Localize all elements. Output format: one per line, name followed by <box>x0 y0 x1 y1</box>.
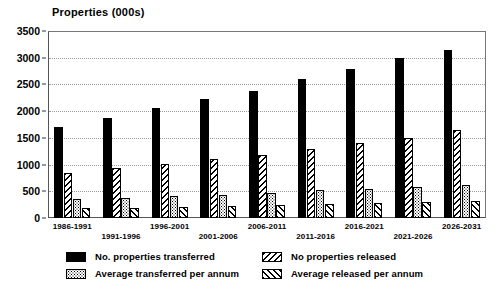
legend-swatch-icon <box>66 252 86 262</box>
bar <box>316 190 325 218</box>
bar-group <box>444 32 480 218</box>
y-tick-label: 1500 <box>17 132 40 144</box>
bar <box>307 149 316 218</box>
bar <box>121 198 130 218</box>
bar <box>161 164 170 218</box>
y-tick-mark <box>42 57 46 58</box>
chart-title: Properties (000s) <box>52 6 145 18</box>
y-tick-mark <box>42 31 46 32</box>
bar <box>258 155 267 218</box>
bar <box>152 108 161 218</box>
bars-layer <box>49 32 485 218</box>
bar <box>404 138 413 218</box>
bar-group <box>103 32 139 218</box>
x-tick-label: 1986-1991 <box>53 222 92 231</box>
bar <box>471 201 480 218</box>
y-tick-label: 3500 <box>17 25 40 37</box>
bar <box>112 168 121 218</box>
bar <box>422 202 431 218</box>
y-tick-mark <box>42 164 46 165</box>
bar-group <box>249 32 285 218</box>
bar <box>73 199 82 218</box>
bar <box>54 127 63 218</box>
y-tick-label: 1000 <box>17 159 40 171</box>
bar <box>276 205 285 218</box>
x-tick-label: 1996-2001 <box>150 222 189 231</box>
bar <box>346 69 355 218</box>
x-tick-label: 2021-2026 <box>393 232 432 241</box>
bar <box>413 187 422 218</box>
bar <box>365 189 374 218</box>
bar <box>356 143 365 218</box>
y-tick-label: 3000 <box>17 52 40 64</box>
bar <box>325 204 334 218</box>
bar-group <box>395 32 431 218</box>
legend-item[interactable]: Average transferred per annum <box>66 268 239 279</box>
y-tick-label: 2000 <box>17 105 40 117</box>
bar <box>462 185 471 218</box>
x-tick-label: 1991-1996 <box>101 232 140 241</box>
bar <box>228 206 237 218</box>
legend-item[interactable]: No properties released <box>262 251 396 262</box>
legend-label: Average released per annum <box>291 268 423 279</box>
x-tick-label: 2026-2031 <box>442 222 481 231</box>
legend-swatch-icon <box>66 269 86 279</box>
bar-group <box>200 32 236 218</box>
legend-label: No. properties transferred <box>95 251 215 262</box>
bar-group <box>54 32 90 218</box>
bar <box>170 196 179 218</box>
y-tick-mark <box>42 84 46 85</box>
bar <box>103 118 112 218</box>
bar <box>179 207 188 218</box>
bar <box>267 193 276 218</box>
x-axis: 1986-19911991-19961996-20012001-20062006… <box>0 219 497 249</box>
y-tick-label: 500 <box>22 185 40 197</box>
bar-group <box>298 32 334 218</box>
legend-swatch-icon <box>262 252 282 262</box>
legend-label: Average transferred per annum <box>95 268 239 279</box>
bar <box>130 208 139 218</box>
y-tick-label: 2500 <box>17 78 40 90</box>
chart-legend: No. properties transferredNo properties … <box>0 250 497 290</box>
bar <box>249 91 258 218</box>
bar-group <box>346 32 382 218</box>
bar <box>444 50 453 218</box>
legend-item[interactable]: Average released per annum <box>262 268 423 279</box>
x-tick-label: 2011-2016 <box>296 232 335 241</box>
bar <box>395 58 404 218</box>
x-tick-label: 2001-2006 <box>199 232 238 241</box>
bar <box>82 208 91 218</box>
legend-label: No properties released <box>291 251 396 262</box>
legend-item[interactable]: No. properties transferred <box>66 251 215 262</box>
bar <box>374 203 383 218</box>
bar <box>219 195 228 219</box>
y-tick-mark <box>42 137 46 138</box>
y-axis: 0500100015002000250030003500 <box>0 31 46 218</box>
x-tick-label: 2016-2021 <box>345 222 384 231</box>
legend-swatch-icon <box>262 269 282 279</box>
y-tick-mark <box>42 191 46 192</box>
x-tick-label: 2006-2011 <box>248 222 287 231</box>
bar <box>64 173 73 218</box>
bar-chart: Properties (000s) 0500100015002000250030… <box>0 0 497 297</box>
bar-group <box>152 32 188 218</box>
bar <box>210 159 219 218</box>
bar <box>298 79 307 218</box>
bar <box>453 130 462 218</box>
y-tick-mark <box>42 111 46 112</box>
bar <box>200 99 209 218</box>
